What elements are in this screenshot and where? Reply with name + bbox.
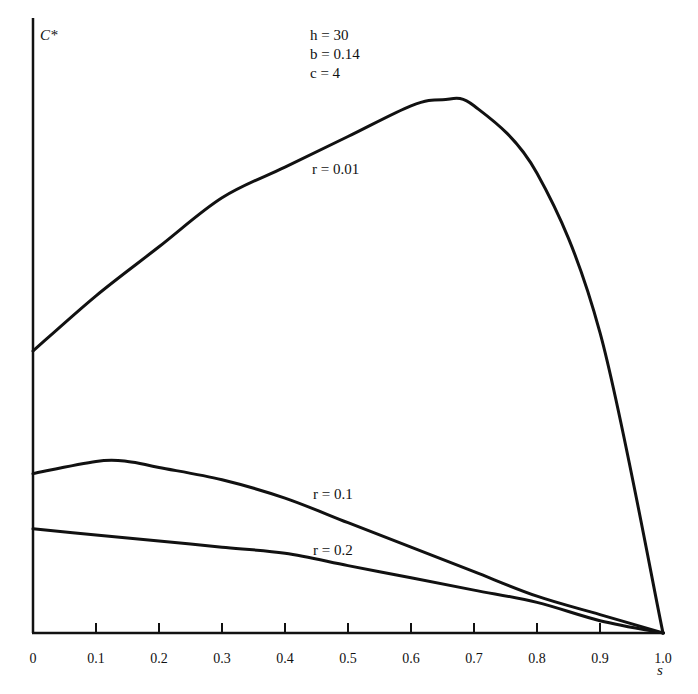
x-axis-label: s [657, 662, 663, 678]
x-tick-label: 0.7 [465, 651, 483, 666]
x-tick-label: 0.2 [150, 651, 168, 666]
label-r-0-01: r = 0.01 [312, 161, 359, 177]
y-axis-label: C* [40, 27, 58, 43]
param-b: b = 0.14 [310, 46, 360, 62]
x-tick-label: 0.4 [276, 651, 294, 666]
x-tick-label: 0.6 [402, 651, 420, 666]
x-tick-label: 0 [30, 651, 37, 666]
x-tick-label: 0.3 [213, 651, 231, 666]
x-ticks [96, 623, 600, 633]
x-tick-label: 0.5 [339, 651, 357, 666]
x-tick-label: 0.9 [591, 651, 609, 666]
param-c: c = 4 [310, 65, 341, 81]
label-r-0-2: r = 0.2 [313, 542, 353, 558]
chart: 00.10.20.30.40.50.60.70.80.91.0 C* s h =… [0, 0, 698, 694]
param-h: h = 30 [310, 27, 348, 43]
x-tick-label: 0.8 [528, 651, 546, 666]
x-tick-labels: 00.10.20.30.40.50.60.70.80.91.0 [30, 651, 672, 666]
x-tick-label: 0.1 [87, 651, 105, 666]
label-r-0-1: r = 0.1 [313, 486, 353, 502]
